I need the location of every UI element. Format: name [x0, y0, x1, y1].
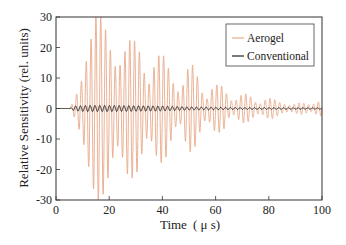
- x-tick-label: 40: [156, 203, 168, 217]
- legend-label-conventional: Conventional: [247, 50, 309, 62]
- y-tick-label: -30: [36, 193, 52, 207]
- legend: Aerogel Conventional: [226, 24, 314, 66]
- y-tick-label: 0: [46, 102, 52, 116]
- x-axis-title-unit: ( μ s): [193, 217, 220, 232]
- y-axis-title: Relative Sensitivity (rel. units): [16, 28, 31, 188]
- x-tick-label: 0: [53, 203, 59, 217]
- y-tick-label: 10: [40, 71, 52, 85]
- legend-label-aerogel: Aerogel: [247, 32, 284, 45]
- y-tick-label: 30: [40, 10, 52, 24]
- y-tick-label: 20: [40, 41, 52, 55]
- x-tick-label: 80: [263, 203, 275, 217]
- x-axis-title: Time( μ s): [160, 217, 220, 232]
- y-tick-label: -20: [36, 163, 52, 177]
- y-tick-label: -10: [36, 132, 52, 146]
- x-tick-label: 100: [313, 203, 331, 217]
- x-tick-label: 20: [103, 203, 115, 217]
- chart: -30-20-100102030 020406080100 Relative S…: [0, 0, 346, 245]
- x-axis-title-main: Time: [160, 217, 187, 232]
- x-tick-label: 60: [210, 203, 222, 217]
